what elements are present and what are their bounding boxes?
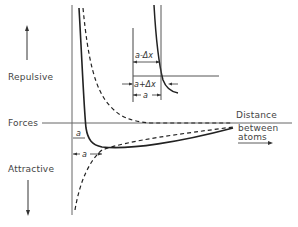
atoms-label: atoms xyxy=(238,132,267,142)
arrow-left-icon xyxy=(133,61,137,64)
arrow-right-icon xyxy=(157,94,161,97)
distance-label: Distance xyxy=(236,110,277,120)
arrow-right-icon xyxy=(268,141,273,145)
forces-label: Forces xyxy=(8,118,38,128)
attractive-label: Attractive xyxy=(8,164,54,174)
arrow-right-icon xyxy=(98,153,102,156)
arrow-down-icon xyxy=(26,210,30,216)
a-main-label: a xyxy=(82,150,87,159)
arrow-left-icon xyxy=(168,83,172,86)
inset-a-minus-label: a-Δx xyxy=(135,51,153,60)
inset-curve xyxy=(154,5,178,93)
inset-a-label: a xyxy=(143,91,148,100)
attractive-force-curve xyxy=(75,127,233,210)
inset-detail: a-Δx a+Δx a xyxy=(122,5,219,102)
repulsive-label: Repulsive xyxy=(8,72,53,82)
inset-a-plus-label: a+Δx xyxy=(134,80,156,89)
arrow-right-icon xyxy=(129,83,133,86)
force-distance-diagram: Repulsive Forces Attractive a a Distance… xyxy=(0,0,298,227)
arrow-left-icon xyxy=(133,94,137,97)
arrow-left-icon xyxy=(73,153,77,156)
repulsive-force-curve xyxy=(83,8,233,123)
arrow-up-icon xyxy=(25,25,29,31)
a-small-label: a xyxy=(76,129,81,138)
